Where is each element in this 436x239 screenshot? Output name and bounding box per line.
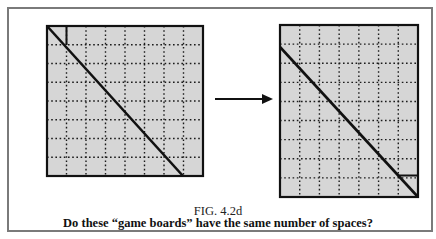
arrow-head (262, 94, 273, 104)
left-board (47, 26, 203, 176)
right-board (280, 25, 418, 197)
right-arrow-icon (215, 94, 273, 104)
right-board-fill (280, 25, 418, 197)
figure-question: Do these “game boards” have the same num… (0, 217, 436, 230)
